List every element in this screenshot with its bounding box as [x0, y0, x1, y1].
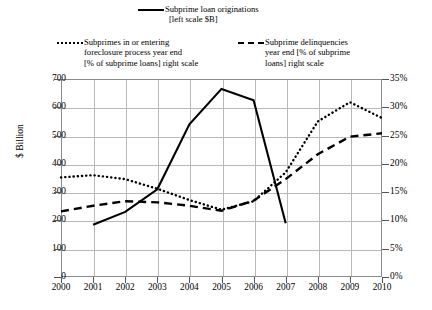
legend-foreclosure-line3: [% of subprime loans] right scale [57, 58, 198, 68]
y-axis-right-tick-mark [382, 107, 389, 108]
y-axis-right-tick-mark [382, 277, 389, 278]
y-axis-left-tick-mark [54, 164, 61, 165]
legend-originations-line1: Subprime loan originations [165, 4, 259, 14]
y-axis-right-tick-label: 15% [390, 187, 430, 196]
y-axis-left-tick-mark [54, 249, 61, 250]
y-axis-right-tick-label: 5% [390, 244, 430, 253]
dashed-line-swatch-icon [238, 38, 264, 46]
x-axis-tick-mark [93, 277, 94, 283]
x-axis-tick-mark [125, 277, 126, 283]
legend-entry-delinquency: Subprime delinquencies year end [% of su… [238, 36, 350, 68]
y-axis-right-tick-mark [382, 249, 389, 250]
y-axis-right-tick-label: 35% [390, 74, 430, 83]
dotted-line-swatch-icon [57, 38, 83, 46]
legend-entry-originations: Subprime loan originations [left scale $… [138, 3, 259, 25]
legend-line-row: Subprime loan originations [138, 3, 259, 14]
y-axis-left-tick-mark [54, 192, 61, 193]
legend-entry-foreclosure: Subprimes in or entering foreclosure pro… [57, 36, 198, 68]
x-axis-tick-mark [254, 277, 255, 283]
y-axis-right-tick-label: 0% [390, 272, 430, 281]
x-axis-tick-mark [318, 277, 319, 283]
y-axis-left-tick-mark [54, 79, 61, 80]
legend-originations-line2: [left scale $B] [138, 14, 259, 24]
subprime-chart-figure: Subprime loan originations [left scale $… [0, 0, 432, 310]
x-axis-tick-mark [157, 277, 158, 283]
y-axis-right-tick-label: 10% [390, 215, 430, 224]
y-axis-right-tick-mark [382, 192, 389, 193]
series-line-foreclosure [61, 102, 382, 209]
legend-foreclosure-line1: Subprimes in or entering [84, 37, 169, 47]
x-axis-tick-mark [61, 277, 62, 283]
y-axis-left-tick-mark [54, 277, 61, 278]
legend-line-row: Subprimes in or entering [57, 36, 198, 47]
y-axis-left-tick-mark [54, 136, 61, 137]
series-line-originations [93, 89, 286, 225]
x-axis-tick-mark [189, 277, 190, 283]
y-axis-right-tick-mark [382, 136, 389, 137]
x-axis-tick-mark [382, 277, 383, 283]
x-axis-tick-mark [222, 277, 223, 283]
legend-delinquency-line3: loans] right scale [238, 58, 350, 68]
series-line-delinquency [61, 133, 382, 211]
y-axis-left-tick-mark [54, 107, 61, 108]
y-axis-right-tick-mark [382, 220, 389, 221]
x-axis-tick-mark [350, 277, 351, 283]
legend-line-row: Subprime delinquencies [238, 36, 350, 47]
y-axis-right-tick-label: 20% [390, 159, 430, 168]
legend-delinquency-line2: year end [% of subprime [238, 47, 350, 57]
data-series-layer [61, 79, 382, 277]
y-axis-right-tick-mark [382, 164, 389, 165]
x-axis-tick-label: 2010 [362, 283, 402, 292]
legend-delinquency-line1: Subprime delinquencies [265, 37, 348, 47]
x-axis-tick-mark [286, 277, 287, 283]
solid-line-swatch-icon [138, 5, 164, 13]
y-axis-left-tick-mark [54, 220, 61, 221]
legend-foreclosure-line2: foreclosure process year end [57, 47, 198, 57]
y-axis-right-tick-mark [382, 79, 389, 80]
y-axis-right-tick-label: 30% [390, 102, 430, 111]
y-axis-left-title: $ Billion [14, 124, 25, 158]
y-axis-right-tick-label: 25% [390, 131, 430, 140]
